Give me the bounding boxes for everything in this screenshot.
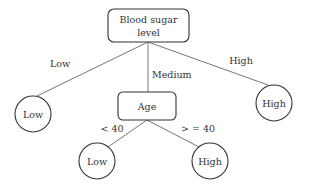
leaf-low-root: Low <box>15 96 51 132</box>
edge-root-to-low <box>37 42 148 96</box>
root-label-line1: Blood sugar <box>120 14 178 25</box>
edge-label-lt40: < 40 <box>100 123 123 134</box>
edge-label-ge40: > = 40 <box>181 123 215 134</box>
age-node: Age <box>118 92 176 120</box>
leaf-low-age: Low <box>79 143 115 179</box>
edge-label-low: Low <box>50 58 70 69</box>
leaf-low-root-label: Low <box>23 109 43 120</box>
decision-tree-diagram: Blood sugar level Low Medium High Low Hi… <box>0 0 309 192</box>
edge-label-medium: Medium <box>152 69 192 80</box>
leaf-high-root-label: High <box>262 98 286 109</box>
leaf-low-age-label: Low <box>87 156 107 167</box>
edge-label-high: High <box>229 55 253 66</box>
leaf-high-root: High <box>256 85 292 121</box>
leaf-high-age: High <box>192 143 228 179</box>
root-label-line2: level <box>137 27 160 38</box>
root-node: Blood sugar level <box>108 9 189 42</box>
leaf-high-age-label: High <box>198 156 222 167</box>
age-label: Age <box>137 101 157 112</box>
